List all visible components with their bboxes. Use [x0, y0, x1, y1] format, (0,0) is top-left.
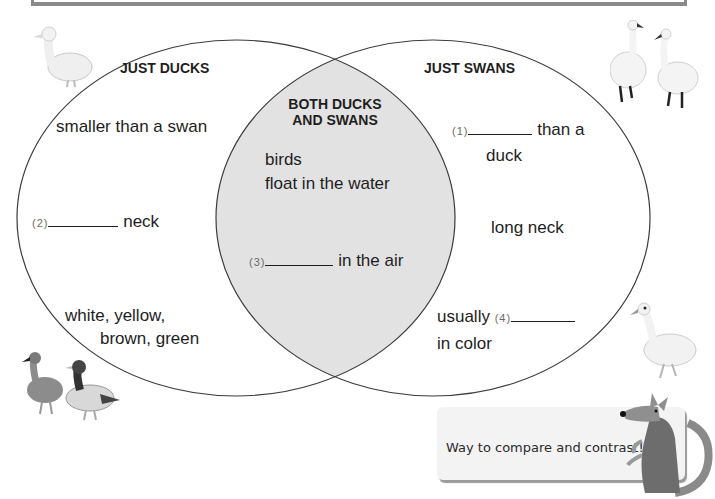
- kangaroo-mascot-icon: [620, 393, 715, 499]
- ducks-color-line1: white, yellow,: [65, 306, 165, 326]
- overlap-region: [216, 40, 650, 396]
- both-heading-line2: AND SWANS: [285, 112, 385, 128]
- answer-blank-2[interactable]: [48, 210, 118, 227]
- swans-size-item: (1) than a: [452, 118, 584, 141]
- swans-color-item: usually (4): [437, 305, 575, 328]
- both-air-text: in the air: [338, 251, 403, 270]
- both-air-item: (3) in the air: [249, 249, 403, 272]
- both-heading: BOTH DUCKS AND SWANS: [285, 96, 385, 128]
- speech-bubble-text: Way to compare and contrast!: [446, 440, 644, 455]
- ducks-neck-text: neck: [123, 212, 159, 231]
- blank-number-3: (3): [249, 256, 265, 268]
- both-heading-line1: BOTH DUCKS: [285, 96, 385, 112]
- white-duck-icon: [30, 25, 95, 90]
- swans-size-text2: duck: [486, 146, 522, 166]
- ducks-size-text: smaller than a swan: [56, 117, 207, 137]
- swans-heading: JUST SWANS: [424, 60, 515, 76]
- ducks-heading: JUST DUCKS: [120, 60, 209, 76]
- blank-number-1: (1): [452, 125, 468, 137]
- swans-size-text: than a: [537, 120, 584, 139]
- swans-neck-text: long neck: [491, 218, 564, 238]
- answer-blank-4[interactable]: [511, 305, 575, 322]
- blank-number-4: (4): [495, 312, 511, 324]
- ducks-color-line2: brown, green: [100, 329, 199, 349]
- two-mallard-ducks-icon: [20, 350, 130, 425]
- answer-blank-1[interactable]: [468, 118, 532, 135]
- swans-color-text: in color: [437, 334, 492, 354]
- two-swans-icon: [610, 20, 705, 110]
- blank-number-2: (2): [32, 217, 48, 229]
- both-birds-text: birds: [265, 150, 302, 170]
- swan-icon: [628, 300, 703, 385]
- both-float-text: float in the water: [265, 174, 390, 194]
- ducks-neck-item: (2) neck: [32, 210, 159, 233]
- answer-blank-3[interactable]: [265, 249, 333, 266]
- swans-color-prefix: usually: [437, 307, 490, 326]
